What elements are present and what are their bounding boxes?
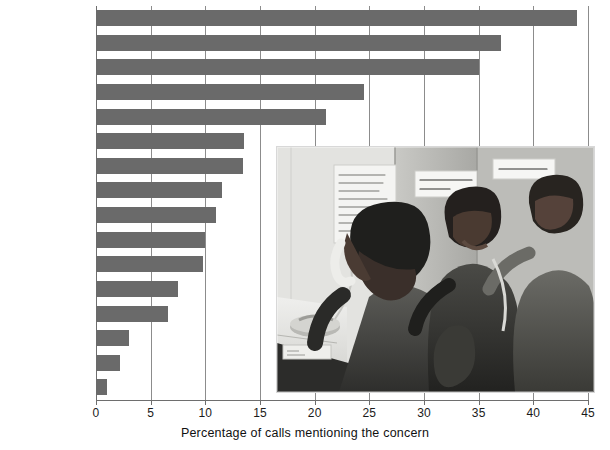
x-tick-5 <box>151 400 152 405</box>
bar <box>96 306 168 322</box>
bar <box>96 330 129 346</box>
bar-chart: Family problemsPeer relationshipsSelf-es… <box>0 0 610 450</box>
bar <box>96 59 479 75</box>
x-tick-label-20: 20 <box>308 406 322 420</box>
bar <box>96 109 326 125</box>
wall-note-crisis <box>493 159 555 179</box>
x-tick-30 <box>424 400 425 405</box>
x-tick-label-35: 35 <box>472 406 486 420</box>
helpline-photo-graphic <box>277 147 594 392</box>
x-tick-label-5: 5 <box>147 406 154 420</box>
bar <box>96 182 222 198</box>
x-axis-line <box>96 400 589 401</box>
x-tick-20 <box>315 400 316 405</box>
bar <box>96 133 244 149</box>
helpline-photo <box>277 147 594 392</box>
x-tick-label-10: 10 <box>198 406 212 420</box>
bar <box>96 207 216 223</box>
bar <box>96 84 364 100</box>
x-tick-10 <box>205 400 206 405</box>
x-axis-title: Percentage of calls mentioning the conce… <box>0 426 610 440</box>
x-tick-35 <box>479 400 480 405</box>
x-tick-label-45: 45 <box>581 406 595 420</box>
x-tick-label-15: 15 <box>253 406 267 420</box>
bar <box>96 10 577 26</box>
x-tick-label-25: 25 <box>362 406 376 420</box>
x-tick-label-0: 0 <box>93 406 100 420</box>
bar <box>96 355 120 371</box>
bar <box>96 158 243 174</box>
bar <box>96 281 178 297</box>
x-tick-15 <box>260 400 261 405</box>
x-tick-label-30: 30 <box>417 406 431 420</box>
x-tick-0 <box>96 400 97 405</box>
x-tick-25 <box>369 400 370 405</box>
bar <box>96 379 107 395</box>
bar <box>96 35 501 51</box>
x-tick-40 <box>533 400 534 405</box>
x-tick-45 <box>588 400 589 405</box>
x-tick-label-40: 40 <box>526 406 540 420</box>
bar <box>96 232 205 248</box>
bar <box>96 256 203 272</box>
